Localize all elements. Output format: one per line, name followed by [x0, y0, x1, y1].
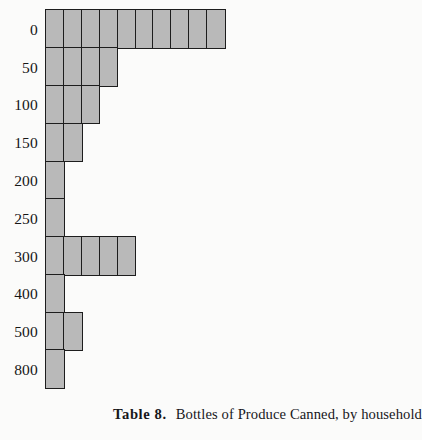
unit-cell [45, 236, 65, 275]
chart-row: 200 [0, 162, 260, 200]
chart-row: 300 [0, 238, 260, 276]
row-axis-label: 500 [0, 313, 45, 351]
figure-caption: Table 8.Bottles of Produce Canned, by ho… [113, 406, 415, 423]
row-cells [45, 238, 136, 276]
chart-row: 250 [0, 200, 260, 238]
unit-cell [45, 312, 65, 351]
row-axis-label: 300 [0, 238, 45, 276]
chart-row: 50 [0, 49, 260, 87]
chart-row: 800 [0, 351, 260, 389]
unit-cell [63, 312, 83, 351]
unit-cell [63, 47, 83, 86]
row-cells [45, 313, 83, 351]
row-axis-label: 200 [0, 162, 45, 200]
caption-text: Bottles of Produce Canned, by household [176, 406, 422, 422]
unit-cell [99, 47, 119, 86]
unit-cell [45, 274, 65, 313]
row-axis-label: 100 [0, 87, 45, 125]
row-cells [45, 200, 65, 238]
unit-cell [45, 9, 65, 48]
unit-cell [63, 85, 83, 124]
unit-cell [117, 236, 137, 275]
unit-cell [81, 47, 101, 86]
unit-cell [99, 236, 119, 275]
row-axis-label: 150 [0, 124, 45, 162]
row-cells [45, 11, 226, 49]
chart-row: 150 [0, 124, 260, 162]
row-cells [45, 351, 65, 389]
unit-cell [63, 236, 83, 275]
unit-cell [45, 47, 65, 86]
row-cells [45, 162, 65, 200]
unit-cell [63, 123, 83, 162]
pictogram-chart: 050100150200250300400500800 [0, 11, 260, 389]
unit-cell [45, 123, 65, 162]
row-cells [45, 87, 100, 125]
unit-cell [206, 9, 226, 48]
caption-label: Table 8. [113, 406, 167, 422]
unit-cell [135, 9, 155, 48]
row-axis-label: 800 [0, 351, 45, 389]
unit-cell [81, 9, 101, 48]
unit-cell [188, 9, 208, 48]
row-axis-label: 0 [0, 11, 45, 49]
unit-cell [45, 85, 65, 124]
unit-cell [63, 9, 83, 48]
unit-cell [117, 9, 137, 48]
unit-cell [45, 349, 65, 388]
unit-cell [99, 9, 119, 48]
row-axis-label: 250 [0, 200, 45, 238]
chart-row: 100 [0, 87, 260, 125]
unit-cell [45, 161, 65, 200]
unit-cell [45, 198, 65, 237]
row-cells [45, 49, 118, 87]
unit-cell [81, 236, 101, 275]
row-cells [45, 124, 83, 162]
chart-row: 500 [0, 313, 260, 351]
chart-row: 0 [0, 11, 260, 49]
unit-cell [170, 9, 190, 48]
unit-cell [152, 9, 172, 48]
row-axis-label: 50 [0, 49, 45, 87]
row-cells [45, 276, 65, 314]
chart-row: 400 [0, 276, 260, 314]
unit-cell [81, 85, 101, 124]
row-axis-label: 400 [0, 276, 45, 314]
